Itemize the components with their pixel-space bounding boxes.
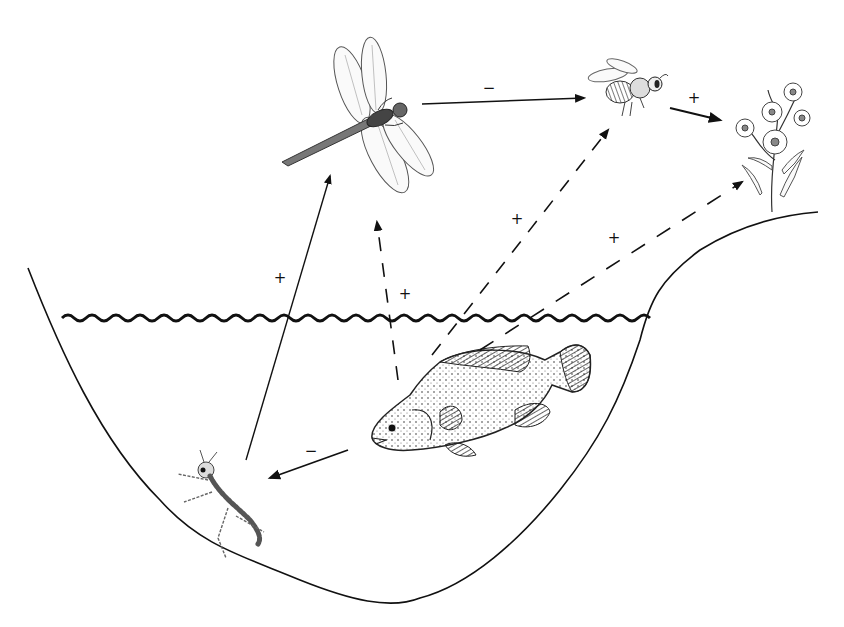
- sign-fish-bee: +: [511, 212, 524, 227]
- sign-fish-larva: −: [305, 444, 318, 459]
- arrow-bee-to-flower: [670, 108, 720, 120]
- sign-fish-flower: +: [608, 231, 621, 246]
- dashed-arrow-fish-to-flower: [480, 182, 742, 350]
- pond-food-web-diagram: [0, 0, 844, 627]
- sign-fish-dragonfly: +: [399, 287, 412, 302]
- sign-dragonfly-bee: −: [483, 81, 496, 96]
- flowering-plant-illustration: [736, 83, 810, 212]
- dashed-arrow-fish-to-dragonfly: [377, 222, 398, 380]
- dragonfly-illustration: [282, 36, 442, 199]
- fish-illustration: [372, 345, 591, 456]
- sign-bee-flower: +: [688, 91, 701, 106]
- arrow-larva-to-dragonfly: [246, 176, 330, 460]
- sign-larva-dragonfly: +: [274, 271, 287, 286]
- dragonfly-larva-illustration: [178, 450, 264, 558]
- bee-illustration: [587, 56, 668, 116]
- arrow-dragonfly-to-bee: [422, 98, 584, 104]
- water-surface: [62, 315, 650, 321]
